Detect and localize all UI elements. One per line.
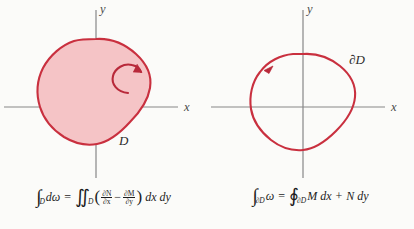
close-paren: ) (136, 187, 142, 206)
x-axis-label: x (183, 100, 190, 114)
right-term-two: N dy (346, 189, 368, 203)
frac1-denominator: ∂x (101, 198, 112, 206)
left-equals-sign: = (63, 190, 72, 204)
right-figure-diagram: x y ∂D (207, 0, 414, 185)
left-figure-diagram: x y D (0, 0, 207, 185)
right-panel: x y ∂D ∫∂Dω = ∮∂DM dx + N dy (207, 0, 414, 229)
left-integral-sign: ∫ (36, 186, 41, 207)
left-formula: ∫Ddω = ∬D(∂N∂x−∂M∂y) dx dy (0, 190, 207, 207)
left-formula-tail: dx dy (145, 190, 171, 204)
partial-n-partial-x-fraction: ∂N∂x (101, 190, 112, 207)
left-double-integral-sign: ∬ (75, 186, 90, 207)
boundary-label: ∂D (349, 52, 365, 67)
region-d-shape (38, 39, 151, 145)
left-integrand: dω (46, 190, 60, 204)
figure-root: x y D ∫Ddω = ∬D(∂N∂x−∂M∂y) dx dy x y ∂D (0, 0, 414, 229)
right-formula: ∫∂Dω = ∮∂DM dx + N dy (207, 190, 414, 205)
partial-m-partial-y-fraction: ∂M∂y (123, 190, 135, 207)
right-term-one: M dx (307, 189, 331, 203)
y-axis-label: y (305, 2, 313, 16)
frac2-denominator: ∂y (123, 198, 135, 206)
right-integrand: ω (266, 189, 274, 203)
region-label-d: D (118, 133, 129, 148)
y-axis-label: y (98, 2, 106, 16)
minus-sign: − (113, 190, 122, 204)
x-axis-label: x (390, 100, 397, 114)
open-paren: ( (95, 187, 101, 206)
right-equals-sign: = (277, 189, 286, 203)
contour-integral-sign: ∮ (289, 185, 299, 206)
right-integral-sign: ∫ (252, 185, 257, 206)
plus-sign: + (334, 189, 343, 203)
left-panel: x y D ∫Ddω = ∬D(∂N∂x−∂M∂y) dx dy (0, 0, 207, 229)
